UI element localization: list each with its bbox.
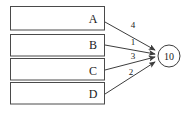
source-node-c[interactable]: C [11,59,105,81]
source-label-d: D [89,87,98,101]
source-label-b: B [89,38,97,52]
diagram-canvas: A 4 B 1 C 3 D 2 10 [0,0,185,114]
source-label-a: A [89,12,98,26]
edge-weight-b: 1 [131,37,136,47]
diagram-svg: A 4 B 1 C 3 D 2 10 [0,0,185,114]
source-label-c: C [89,64,97,78]
source-node-a[interactable]: A [11,7,105,31]
edge-weight-c: 3 [131,51,136,61]
sink-label: 10 [164,51,174,62]
edge-weight-d: 2 [129,67,134,77]
sink-node[interactable]: 10 [158,45,180,67]
source-node-b[interactable]: B [11,35,105,57]
edge-weight-a: 4 [131,20,136,30]
source-node-d[interactable]: D [11,83,105,105]
